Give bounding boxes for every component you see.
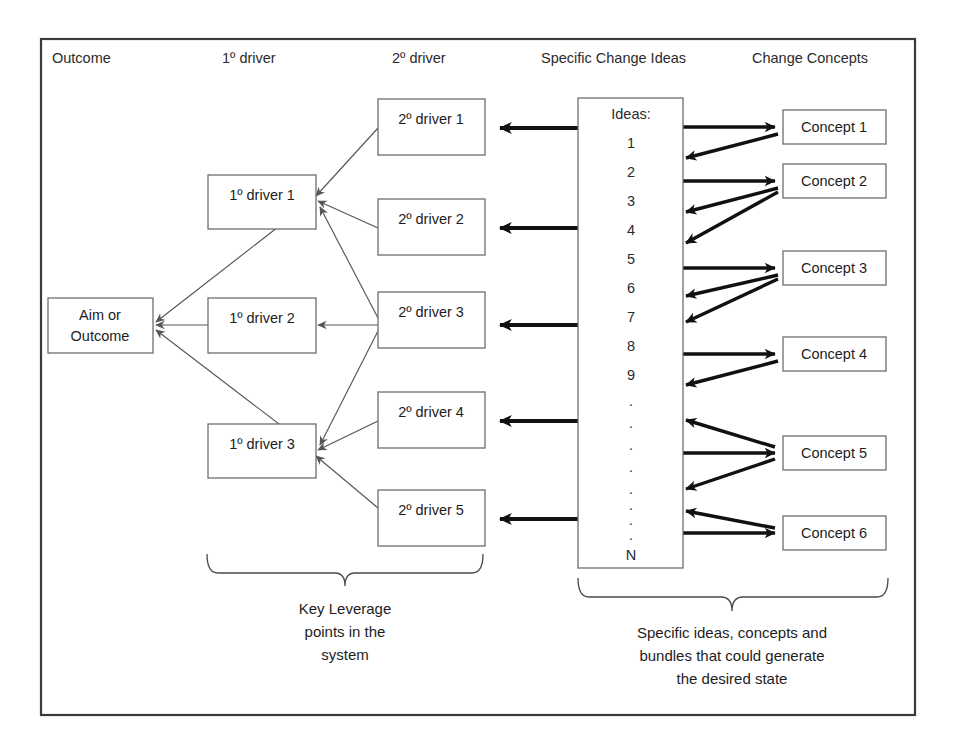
concept-3-label: Concept 3 bbox=[801, 260, 867, 276]
secondary-driver-3-label: 2º driver 3 bbox=[398, 304, 464, 320]
ideas-ellipsis-6: · bbox=[629, 500, 634, 516]
secondary-driver-4-label: 2º driver 4 bbox=[398, 404, 464, 420]
driver-diagram-svg: Outcome 1º driver 2º driver Specific Cha… bbox=[0, 0, 955, 749]
aim-box-line1: Aim or bbox=[79, 307, 121, 323]
node-aim-or-outcome[interactable]: Aim or Outcome bbox=[48, 298, 153, 353]
diagram-canvas: Outcome 1º driver 2º driver Specific Cha… bbox=[0, 0, 955, 749]
secondary-driver-5-label: 2º driver 5 bbox=[398, 502, 464, 518]
node-secondary-driver-5[interactable]: 2º driver 5 bbox=[378, 490, 485, 546]
primary-driver-2-label: 1º driver 2 bbox=[229, 310, 295, 326]
ideas-item-1: 1 bbox=[627, 135, 635, 151]
primary-driver-1-label: 1º driver 1 bbox=[229, 187, 295, 203]
column-header-secondary-driver: 2º driver bbox=[392, 50, 446, 66]
ideas-ellipsis-5: · bbox=[629, 484, 634, 500]
ideas-item-5: 5 bbox=[627, 251, 635, 267]
ideas-ellipsis-2: · bbox=[629, 418, 634, 434]
concept-5-label: Concept 5 bbox=[801, 445, 867, 461]
node-secondary-driver-2[interactable]: 2º driver 2 bbox=[378, 199, 485, 255]
concept-6-label: Concept 6 bbox=[801, 525, 867, 541]
node-concept-6[interactable]: Concept 6 bbox=[783, 516, 886, 550]
ideas-item-7: 7 bbox=[627, 309, 635, 325]
ideas-item-n: N bbox=[626, 547, 636, 563]
node-concept-4[interactable]: Concept 4 bbox=[783, 337, 886, 371]
node-concept-1[interactable]: Concept 1 bbox=[783, 110, 886, 144]
ideas-item-4: 4 bbox=[627, 222, 635, 238]
right-caption-line3: the desired state bbox=[677, 670, 788, 687]
node-concept-5[interactable]: Concept 5 bbox=[783, 436, 886, 470]
concept-2-label: Concept 2 bbox=[801, 173, 867, 189]
ideas-ellipsis-1: · bbox=[629, 396, 634, 412]
column-header-specific-change-ideas: Specific Change Ideas bbox=[541, 50, 686, 66]
primary-driver-3-label: 1º driver 3 bbox=[229, 436, 295, 452]
ideas-ellipsis-8: · bbox=[629, 530, 634, 546]
ideas-item-3: 3 bbox=[627, 193, 635, 209]
ideas-item-9: 9 bbox=[627, 367, 635, 383]
secondary-driver-1-label: 2º driver 1 bbox=[398, 111, 464, 127]
column-header-outcome: Outcome bbox=[52, 50, 111, 66]
secondary-driver-2-label: 2º driver 2 bbox=[398, 211, 464, 227]
ideas-item-6: 6 bbox=[627, 280, 635, 296]
node-primary-driver-2[interactable]: 1º driver 2 bbox=[208, 298, 316, 353]
node-secondary-driver-3[interactable]: 2º driver 3 bbox=[378, 292, 485, 348]
node-concept-3[interactable]: Concept 3 bbox=[783, 251, 886, 285]
left-caption-line2: points in the bbox=[305, 623, 386, 640]
left-caption-line3: system bbox=[321, 646, 369, 663]
left-caption-line1: Key Leverage bbox=[299, 600, 392, 617]
ideas-item-8: 8 bbox=[627, 338, 635, 354]
right-caption-line1: Specific ideas, concepts and bbox=[637, 624, 827, 641]
column-header-change-concepts: Change Concepts bbox=[752, 50, 868, 66]
ideas-heading: Ideas: bbox=[611, 106, 651, 122]
node-primary-driver-3[interactable]: 1º driver 3 bbox=[208, 424, 316, 478]
ideas-item-2: 2 bbox=[627, 164, 635, 180]
node-concept-2[interactable]: Concept 2 bbox=[783, 164, 886, 198]
node-ideas-box[interactable]: Ideas: 1 2 3 4 5 6 7 8 9 · · · · · · · ·… bbox=[578, 98, 683, 568]
right-caption-line2: bundles that could generate bbox=[639, 647, 824, 664]
ideas-ellipsis-3: · bbox=[629, 440, 634, 456]
node-secondary-driver-1[interactable]: 2º driver 1 bbox=[378, 99, 485, 155]
concept-1-label: Concept 1 bbox=[801, 119, 867, 135]
node-secondary-driver-4[interactable]: 2º driver 4 bbox=[378, 392, 485, 448]
aim-box-line2: Outcome bbox=[71, 328, 130, 344]
column-header-primary-driver: 1º driver bbox=[222, 50, 276, 66]
concept-4-label: Concept 4 bbox=[801, 346, 867, 362]
ideas-ellipsis-7: · bbox=[629, 515, 634, 531]
node-primary-driver-1[interactable]: 1º driver 1 bbox=[208, 175, 316, 229]
ideas-ellipsis-4: · bbox=[629, 462, 634, 478]
